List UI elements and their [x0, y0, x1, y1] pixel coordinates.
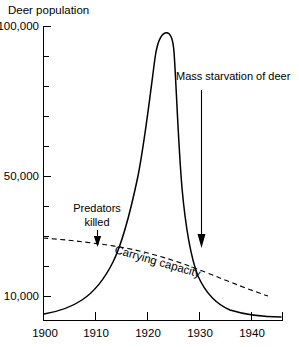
y-tick-label-100000: 100,000	[0, 20, 39, 32]
predators-killed-arrow-icon	[94, 236, 101, 247]
x-tick-label-1930: 1930	[187, 327, 213, 339]
annotation-carrying-capacity-text: Carrying capacity	[113, 243, 202, 279]
annotation-mass-starvation: Mass starvation of deer	[176, 70, 291, 248]
y-axis-minor-ticks	[44, 57, 50, 267]
annotation-mass-starvation-text: Mass starvation of deer	[176, 70, 291, 82]
mass-starvation-arrow-icon	[198, 234, 206, 248]
y-axis-major-ticks	[44, 27, 52, 297]
annotation-predators-killed-line2: killed	[84, 216, 109, 228]
x-axis-ticks	[96, 312, 283, 321]
y-tick-label-50000: 50,000	[4, 170, 39, 182]
y-tick-label-10000: 10,000	[4, 290, 39, 302]
x-tick-label-1910: 1910	[83, 327, 109, 339]
annotation-predators-killed-line1: Predators	[73, 202, 121, 214]
x-tick-label-1900: 1900	[32, 327, 58, 339]
x-tick-label-1940: 1940	[239, 327, 265, 339]
carrying-capacity-curve	[43, 238, 268, 296]
deer-population-chart: Deer population 100,000 50,000 10,000	[0, 0, 299, 347]
x-tick-label-1920: 1920	[135, 327, 161, 339]
chart-canvas: Deer population 100,000 50,000 10,000	[0, 0, 299, 347]
annotation-predators-killed: Predators killed	[73, 202, 121, 247]
y-axis-title: Deer population	[8, 4, 89, 16]
